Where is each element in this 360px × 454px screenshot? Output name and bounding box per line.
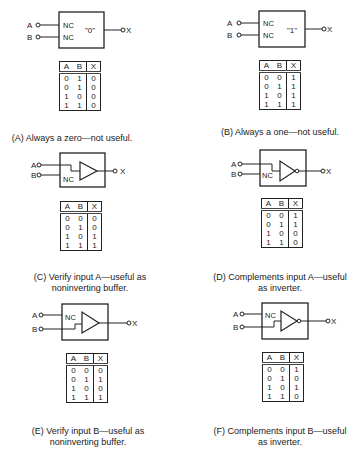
input-b-terminal bbox=[237, 33, 241, 37]
table-row: 011 bbox=[260, 82, 301, 91]
panel-e: A B NC X A B X 000 011 100 111 (E) Verif… bbox=[0, 300, 180, 454]
table-row: 111 bbox=[67, 393, 108, 403]
cell: 1 bbox=[61, 232, 75, 241]
nc-label: NC bbox=[63, 21, 74, 30]
output-x-label: X bbox=[120, 167, 126, 176]
caption: (E) Verify input B—useful as noninvertin… bbox=[0, 426, 178, 448]
table-row: 001 bbox=[263, 364, 304, 375]
header-a: A bbox=[262, 199, 276, 210]
table-row: 010 bbox=[60, 73, 101, 84]
cell: 0 bbox=[80, 384, 94, 393]
caption: (C) Verify input A—useful as noninvertin… bbox=[0, 272, 180, 294]
input-a-terminal bbox=[240, 312, 244, 316]
cell: 1 bbox=[73, 73, 87, 84]
cell: 0 bbox=[260, 82, 274, 91]
cell: 1 bbox=[80, 375, 94, 384]
cell: 1 bbox=[290, 383, 304, 392]
input-a-label: A bbox=[31, 161, 37, 170]
table-row: 001 bbox=[262, 210, 303, 221]
cell: 0 bbox=[94, 365, 108, 376]
inverter-gate-icon bbox=[281, 311, 297, 331]
input-b-terminal bbox=[238, 172, 242, 176]
table-row: 101 bbox=[263, 383, 304, 392]
truth-table-c: A B X 000 010 101 111 bbox=[60, 201, 102, 251]
output-x-label: X bbox=[126, 26, 132, 35]
cell: 0 bbox=[73, 92, 87, 101]
inverter-gate-icon bbox=[280, 161, 295, 181]
input-b-label: B bbox=[227, 31, 232, 40]
cell: 1 bbox=[287, 72, 301, 83]
input-b-terminal bbox=[39, 327, 43, 331]
table-row: 000 bbox=[61, 213, 102, 224]
panel-b: A B NC NC "1" X A B X 001 011 101 111 (B… bbox=[180, 0, 360, 150]
input-b-terminal bbox=[36, 35, 40, 39]
cell: 0 bbox=[262, 220, 276, 229]
input-a-terminal bbox=[37, 163, 41, 167]
cell: 1 bbox=[263, 383, 277, 392]
cell: 0 bbox=[80, 365, 94, 376]
cell: 1 bbox=[263, 392, 277, 402]
panel-f: A B NC X A B X 001 010 101 110 (F) Compl… bbox=[180, 300, 360, 454]
cell: 1 bbox=[262, 238, 276, 248]
input-b-label: B bbox=[233, 323, 238, 332]
cell: 1 bbox=[260, 91, 274, 100]
inversion-bubble-icon bbox=[297, 319, 301, 323]
cell: 0 bbox=[88, 223, 102, 232]
cell: 0 bbox=[87, 83, 101, 92]
header-x: X bbox=[290, 353, 304, 364]
truth-table-b: A B X 001 011 101 111 bbox=[259, 60, 301, 110]
caption-line: noninverting buffer. bbox=[0, 437, 178, 448]
buffer-gate-icon bbox=[82, 312, 99, 333]
truth-table-d: A B X 001 011 100 110 bbox=[261, 198, 303, 248]
table-row: 100 bbox=[60, 92, 101, 101]
circuit-e: A B NC X bbox=[0, 300, 180, 345]
input-a-label: A bbox=[231, 160, 237, 169]
nc-label: NC bbox=[262, 171, 273, 180]
input-a-label: A bbox=[27, 21, 33, 30]
header-a: A bbox=[263, 353, 277, 364]
logic-block bbox=[59, 12, 104, 48]
cell: 0 bbox=[61, 223, 75, 232]
cell: 0 bbox=[94, 384, 108, 393]
nc-label: NC bbox=[263, 31, 274, 40]
header-b: B bbox=[275, 199, 289, 210]
cell: 1 bbox=[73, 83, 87, 92]
nc-label: NC bbox=[63, 33, 74, 42]
input-b-label: B bbox=[231, 170, 236, 179]
table-row: 001 bbox=[260, 72, 301, 83]
table-row: 110 bbox=[60, 101, 101, 111]
cell: 1 bbox=[289, 210, 303, 221]
cell: 0 bbox=[74, 232, 88, 241]
cell: 1 bbox=[289, 220, 303, 229]
cell: 0 bbox=[276, 383, 290, 392]
cell: 1 bbox=[287, 100, 301, 110]
cell: 1 bbox=[273, 100, 287, 110]
inversion-bubble-icon bbox=[295, 169, 299, 173]
circuit-c: A B NC X bbox=[0, 150, 180, 195]
cell: 0 bbox=[262, 210, 276, 221]
output-terminal bbox=[326, 319, 330, 323]
input-b-terminal bbox=[37, 173, 41, 177]
cell: 1 bbox=[67, 393, 81, 403]
header-a: A bbox=[60, 62, 74, 73]
cell: 0 bbox=[60, 73, 74, 84]
nc-label: NC bbox=[65, 313, 76, 322]
header-b: B bbox=[74, 202, 88, 213]
header-b: B bbox=[80, 354, 94, 365]
table-row: 011 bbox=[67, 375, 108, 384]
truth-table-a: A B X 010 010 100 110 bbox=[59, 61, 101, 111]
caption-line: (B) Always a one—not useful. bbox=[190, 127, 360, 138]
cell: 0 bbox=[263, 374, 277, 383]
cell: 1 bbox=[275, 238, 289, 248]
table-row: 000 bbox=[67, 365, 108, 376]
input-b-label: B bbox=[31, 171, 36, 180]
header-b: B bbox=[273, 61, 287, 72]
table-row: 101 bbox=[61, 232, 102, 241]
cell: 1 bbox=[80, 393, 94, 403]
cell: 1 bbox=[287, 82, 301, 91]
cell: 0 bbox=[67, 375, 81, 384]
header-x: X bbox=[87, 62, 101, 73]
output-x-label: X bbox=[132, 319, 138, 328]
input-b-label: B bbox=[27, 33, 32, 42]
table-row: 010 bbox=[263, 374, 304, 383]
